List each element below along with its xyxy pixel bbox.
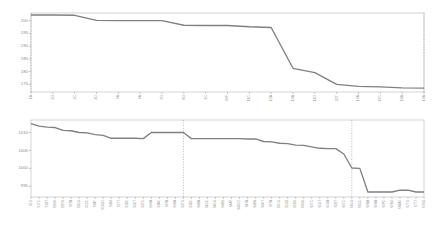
x-tick-label: S2A7 (93, 200, 97, 208)
chart-panel-bottom: 995100010051010S1GS1TCS1BTS1NGS2RGS2TAS2… (0, 114, 440, 228)
x-tick-label: S4GG (213, 199, 217, 208)
x-tick-label: 17C (378, 95, 382, 102)
x-tick-label: 12A (269, 94, 273, 101)
x-tick-label: S7TG (406, 199, 410, 208)
x-tick-label: S5CG (277, 199, 281, 208)
x-tick-label: S2B4 (109, 200, 113, 208)
x-tick-label: S6BG (390, 199, 394, 208)
y-tick-label: 200 (21, 18, 29, 23)
x-tick-label: 11C (247, 95, 251, 102)
x-tick-label: S7TT (414, 200, 418, 208)
x-tick-label: S7NG (422, 199, 426, 208)
y-tick-label: 190 (21, 43, 29, 48)
x-tick-label: S5NG (301, 199, 305, 208)
x-tick-label: 14D (313, 95, 317, 102)
y-tick-label: 180 (21, 69, 29, 74)
x-tick-label: 19A (422, 94, 426, 101)
x-tick-label: S3GA (149, 200, 153, 208)
x-tick-label: S5BT (334, 200, 338, 208)
x-tick-label: S6GC (358, 199, 362, 208)
x-tick-label: S4BG (221, 199, 225, 208)
x-tick-label: S5BG (293, 199, 297, 208)
x-tick-label: 3C (73, 95, 77, 100)
x-tick-label: S3AC (157, 199, 161, 208)
y-tick-label: 1010 (18, 130, 28, 135)
x-tick-label: S5GB (285, 200, 289, 208)
x-tick-label: 16A (356, 94, 360, 101)
x-tick-label: S6PC (382, 199, 386, 208)
x-tick-label: 13A (291, 94, 295, 101)
x-tick-label: S4GC (205, 199, 209, 208)
figure-container: 1751801851901952001A2G3C4D5A6A7G8G9C10F1… (0, 0, 440, 228)
x-tick-label: 2G (51, 95, 55, 100)
x-tick-label: S3TC (141, 199, 145, 208)
x-tick-label: S1TC (37, 199, 41, 208)
x-tick-label: S4BA (197, 200, 201, 208)
x-tick-label: S4GC2 (237, 200, 241, 210)
x-tick-label: S2TT (117, 200, 121, 208)
x-tick-label: S4AT (229, 200, 233, 207)
x-tick-label: S5GA (326, 200, 330, 208)
x-tick-label: S2GG (77, 199, 81, 208)
y-tick-label: 175 (21, 81, 29, 86)
x-tick-label: S2BC (125, 199, 129, 208)
x-tick-label: 5A (116, 94, 120, 99)
x-tick-label: S5TC (310, 199, 314, 208)
x-tick-label: S3BC (189, 199, 193, 208)
x-tick-label: 6A (138, 94, 142, 99)
x-tick-label: 18A (400, 94, 404, 101)
x-tick-label: S3TA (165, 200, 169, 207)
x-tick-label: S3TG (181, 199, 185, 208)
x-tick-label: S3BA (173, 200, 177, 208)
x-tick-label: S2GG2 (101, 200, 105, 210)
x-tick-label: 1A (29, 94, 33, 99)
x-tick-label: S2RG (61, 199, 65, 208)
x-tick-label: S1G (29, 199, 33, 206)
x-tick-label: S2TA (69, 200, 73, 207)
data-line (31, 124, 424, 192)
y-tick-label: 1005 (18, 148, 28, 153)
x-tick-label: S4BN (253, 200, 257, 208)
y-tick-label: 185 (21, 56, 29, 61)
x-tick-label: S3GT (133, 200, 137, 208)
x-tick-label: 8G (182, 95, 186, 100)
x-tick-label: S6TC (342, 199, 346, 208)
x-tick-label: S2CC (85, 199, 89, 208)
x-tick-label: 10F (225, 95, 229, 101)
x-tick-label: S5GT (318, 200, 322, 208)
chart-panel-top: 1751801851901952001A2G3C4D5A6A7G8G9C10F1… (0, 0, 440, 114)
x-tick-label: 4D (94, 95, 98, 100)
x-tick-label: 9C (204, 95, 208, 100)
x-tick-label: S4TA (245, 200, 249, 207)
bottom-chart-svg: 995100010051010S1GS1TCS1BTS1NGS2RGS2TAS2… (0, 114, 440, 228)
x-tick-label: 15T (335, 94, 339, 101)
y-tick-label: 995 (21, 183, 29, 188)
top-chart-svg: 1751801851901952001A2G3C4D5A6A7G8G9C10F1… (0, 0, 440, 114)
x-tick-label: S1BT (45, 200, 49, 208)
x-tick-label: S6BA (374, 200, 378, 208)
x-tick-label: 7G (160, 95, 164, 100)
x-tick-label: S6GG (350, 199, 354, 208)
data-line (31, 15, 424, 88)
x-tick-label: S6NA (366, 200, 370, 208)
y-tick-label: 1000 (18, 165, 28, 170)
x-tick-label: S5TA (269, 200, 273, 207)
x-tick-label: S1NG (53, 199, 57, 208)
x-tick-label: S4GT (261, 200, 265, 208)
y-tick-label: 195 (21, 30, 29, 35)
x-tick-label: S6BA2 (398, 200, 402, 210)
